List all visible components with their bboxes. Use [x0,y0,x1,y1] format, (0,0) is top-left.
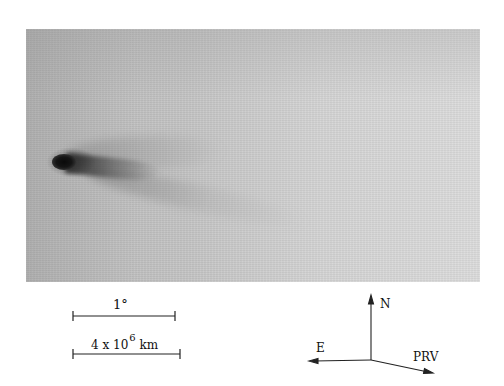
east-arrowhead-icon [309,359,318,364]
linear-scale-unit: km [140,338,159,352]
north-arrowhead-icon [369,295,374,304]
prv-label: PRV [413,351,438,363]
east-arrow-shaft [314,360,371,361]
east-label: E [316,342,325,354]
linear-scale-prefix: 4 x 10 [91,338,128,352]
angular-scale-bar [73,311,175,321]
angular-scale-label: 1° [113,298,128,311]
annotations-layer [0,0,504,386]
prv-arrowhead-icon [424,369,434,374]
linear-scale-exponent: 6 [129,332,135,343]
linear-scale-label: 4 x 106 km [91,336,158,351]
north-label: N [380,298,391,310]
